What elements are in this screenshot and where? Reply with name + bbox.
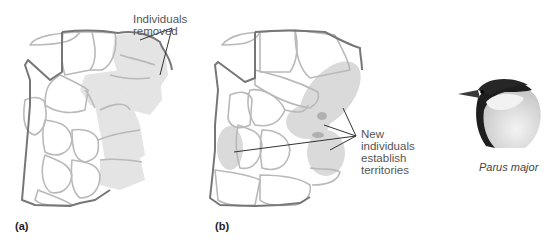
panel-label-a: (a) <box>15 220 28 232</box>
panel-a: Individuals removed (a) <box>0 0 210 245</box>
study-area-boundary <box>210 31 362 207</box>
bird-illustration: Parus major <box>450 70 545 150</box>
new-individuals-label: New individuals establish territories <box>361 128 420 176</box>
individuals-removed-label: Individuals removed <box>133 13 210 37</box>
panel-label-b: (b) <box>215 220 229 232</box>
great-tit-icon <box>450 70 545 150</box>
species-name: Parus major <box>479 161 538 173</box>
territory-map-b <box>200 0 420 245</box>
panel-b: New individuals establish territories (b… <box>200 0 420 245</box>
